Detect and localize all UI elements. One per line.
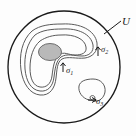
label-u: U xyxy=(122,15,131,27)
label-sigma-2: σ2 xyxy=(101,44,108,55)
sigma-2-arrow xyxy=(96,47,101,56)
label-sigma-3-subscript: 3 xyxy=(99,101,103,107)
figure-canvas: U σ1 σ2 σ3 xyxy=(0,0,136,136)
label-sigma-1: σ1 xyxy=(66,65,73,76)
label-sigma-1-subscript: 1 xyxy=(70,70,73,76)
contour-sigma-2-inner-companion xyxy=(25,29,93,91)
shaded-hole xyxy=(39,44,62,61)
region-diagram-svg: U σ1 σ2 σ3 xyxy=(0,0,136,136)
sigma-1-arrow xyxy=(61,63,66,72)
label-sigma-2-subscript: 2 xyxy=(105,49,108,55)
u-leader-line xyxy=(104,21,121,34)
label-u-text: U xyxy=(122,15,131,27)
